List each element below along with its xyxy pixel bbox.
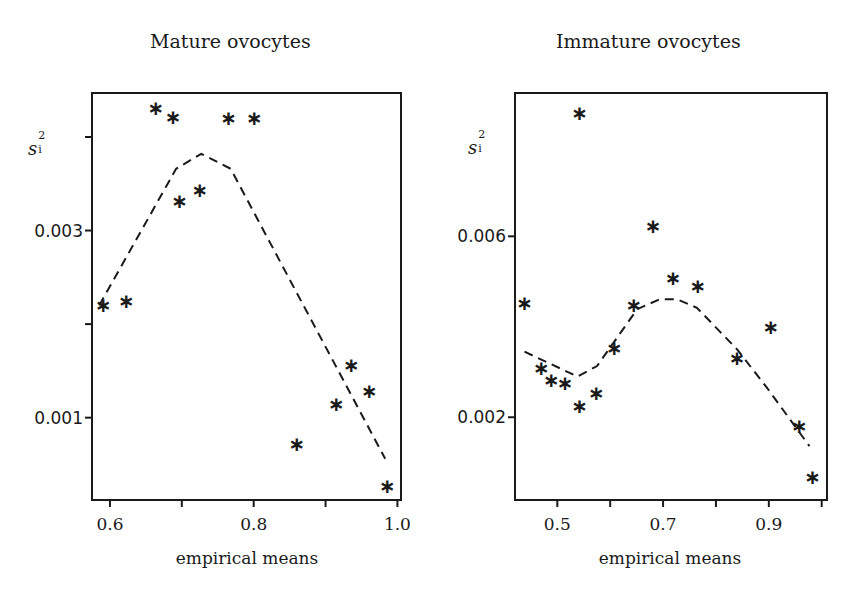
y-tick-label: 0.002 [457,407,506,427]
data-point-asterisk: ∗ [171,189,188,213]
x-tick-label: 0.8 [240,514,267,534]
x-tick-label: 0.7 [650,514,677,534]
plot-frame [515,93,827,500]
data-point-asterisk: ∗ [379,474,396,498]
plot-canvas: 0.60.81.00.0010.003∗∗∗∗∗∗∗∗∗∗∗∗∗0.50.70.… [0,0,852,594]
data-point-asterisk: ∗ [645,214,662,238]
data-point-asterisk: ∗ [191,178,208,202]
x-tick-label: 1.0 [384,514,411,534]
data-point-asterisk: ∗ [606,336,623,360]
data-point-asterisk: ∗ [165,105,182,129]
data-point-asterisk: ∗ [588,381,605,405]
data-point-asterisk: ∗ [665,266,682,290]
data-point-asterisk: ∗ [804,465,821,489]
data-point-asterisk: ∗ [118,289,135,313]
x-tick-label: 0.9 [755,514,782,534]
data-point-asterisk: ∗ [220,106,237,130]
data-point-asterisk: ∗ [571,101,588,125]
data-point-asterisk: ∗ [361,379,378,403]
data-point-asterisk: ∗ [343,353,360,377]
y-tick-label: 0.003 [34,221,83,241]
data-point-asterisk: ∗ [516,291,533,315]
x-tick-label: 0.6 [96,514,123,534]
y-tick-label: 0.006 [457,226,506,246]
data-point-asterisk: ∗ [148,96,165,120]
plot-frame [92,93,401,500]
data-point-asterisk: ∗ [763,315,780,339]
data-point-asterisk: ∗ [571,394,588,418]
data-point-asterisk: ∗ [246,106,263,130]
data-point-asterisk: ∗ [288,432,305,456]
data-point-asterisk: ∗ [328,392,345,416]
data-point-asterisk: ∗ [626,293,643,317]
x-tick-label: 0.5 [544,514,571,534]
y-tick-label: 0.001 [34,408,83,428]
data-point-asterisk: ∗ [690,274,707,298]
data-point-asterisk: ∗ [95,293,112,317]
